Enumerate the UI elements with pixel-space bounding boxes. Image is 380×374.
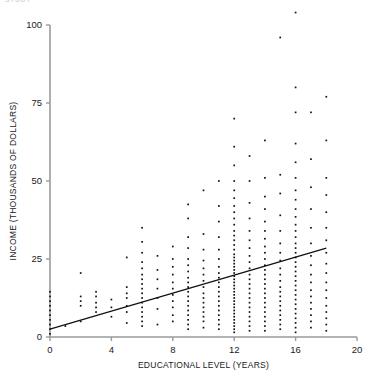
data-point	[295, 230, 297, 232]
x-axis-tick-label: 4	[109, 344, 114, 355]
data-point	[325, 324, 327, 326]
data-point	[264, 325, 266, 327]
data-point	[295, 299, 297, 301]
data-point	[95, 311, 97, 313]
data-point	[126, 297, 128, 299]
axis-labels-group: 0255075100048121620EDUCATIONAL LEVEL (YE…	[8, 19, 362, 370]
data-point	[157, 324, 159, 326]
data-point	[279, 230, 281, 232]
data-point	[218, 305, 220, 307]
data-point	[203, 292, 205, 294]
data-point	[203, 307, 205, 309]
data-point	[249, 268, 251, 270]
data-point	[233, 278, 235, 280]
data-point	[203, 311, 205, 313]
data-point	[249, 302, 251, 304]
regression-line-group	[50, 248, 326, 329]
data-point	[218, 272, 220, 274]
data-point	[218, 236, 220, 238]
data-point	[233, 211, 235, 213]
data-point	[218, 282, 220, 284]
data-point	[203, 274, 205, 276]
data-point	[325, 297, 327, 299]
data-point	[264, 196, 266, 198]
y-axis-tick-label: 25	[31, 253, 42, 264]
data-point	[325, 272, 327, 274]
data-point	[233, 260, 235, 262]
data-point	[218, 310, 220, 312]
data-point	[49, 314, 51, 316]
data-point	[233, 205, 235, 207]
data-point	[141, 297, 143, 299]
data-point	[295, 275, 297, 277]
data-point	[218, 286, 220, 288]
x-axis-title: EDUCATIONAL LEVEL (YEARS)	[138, 360, 269, 370]
data-point	[249, 297, 251, 299]
data-point	[157, 255, 159, 257]
axes-group	[46, 25, 357, 341]
data-point	[279, 243, 281, 245]
data-point	[187, 296, 189, 298]
data-point	[218, 266, 220, 268]
data-point	[233, 288, 235, 290]
data-point	[249, 321, 251, 323]
data-point	[233, 244, 235, 246]
data-point	[233, 285, 235, 287]
data-point	[295, 199, 297, 201]
data-point	[249, 230, 251, 232]
data-point	[295, 236, 297, 238]
data-point	[187, 218, 189, 220]
x-axis-tick-label: 20	[352, 344, 363, 355]
y-axis-title: INCOME (THOUSANDS OF DOLLARS)	[8, 102, 18, 261]
data-point	[218, 328, 220, 330]
data-point	[295, 303, 297, 305]
data-point	[310, 302, 312, 304]
data-point	[233, 253, 235, 255]
data-point	[279, 314, 281, 316]
data-point	[279, 324, 281, 326]
data-point	[233, 249, 235, 251]
data-point	[49, 333, 51, 335]
data-point	[141, 268, 143, 270]
data-point	[295, 317, 297, 319]
data-point	[249, 316, 251, 318]
data-point	[264, 316, 266, 318]
data-point	[203, 233, 205, 235]
data-point	[264, 292, 266, 294]
y-axis-tick-label: 75	[31, 97, 42, 108]
x-axis-tick-label: 12	[229, 344, 240, 355]
data-point	[203, 280, 205, 282]
data-point	[141, 261, 143, 263]
data-point	[141, 307, 143, 309]
data-point	[279, 252, 281, 254]
data-point	[295, 161, 297, 163]
data-point	[279, 291, 281, 293]
data-point	[218, 258, 220, 260]
data-point	[233, 307, 235, 309]
data-point	[187, 236, 189, 238]
data-point	[295, 177, 297, 179]
data-point	[249, 255, 251, 257]
data-point	[233, 331, 235, 333]
data-point	[80, 305, 82, 307]
data-point	[141, 288, 143, 290]
data-point	[279, 274, 281, 276]
data-point	[203, 321, 205, 323]
data-point	[249, 218, 251, 220]
data-point	[264, 221, 266, 223]
data-point	[141, 227, 143, 229]
data-point	[325, 194, 327, 196]
data-point	[264, 297, 266, 299]
data-point	[295, 224, 297, 226]
data-point	[126, 311, 128, 313]
data-point	[279, 300, 281, 302]
data-point	[141, 325, 143, 327]
data-point	[295, 252, 297, 254]
data-point	[187, 264, 189, 266]
data-point	[233, 325, 235, 327]
data-point	[233, 291, 235, 293]
data-point	[279, 193, 281, 195]
data-point	[295, 87, 297, 89]
data-point	[279, 268, 281, 270]
data-point	[325, 263, 327, 265]
